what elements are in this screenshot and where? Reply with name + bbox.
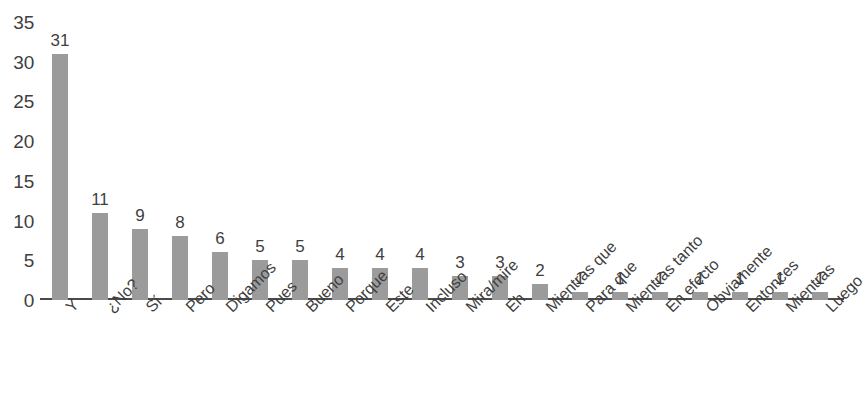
- bar-value-label: 4: [375, 246, 384, 263]
- bar-value-label: 5: [255, 238, 264, 255]
- bar-value-label: 31: [51, 32, 70, 49]
- bar-group: 11: [92, 213, 108, 300]
- bar[interactable]: [172, 236, 188, 300]
- bar-value-label: 8: [175, 214, 184, 231]
- bar[interactable]: [92, 213, 108, 300]
- y-axis-tick-label: 35: [13, 13, 34, 32]
- bar-group: 31: [52, 54, 68, 300]
- bar-group: 8: [172, 236, 188, 300]
- bar-value-label: 4: [335, 246, 344, 263]
- bar-value-label: 4: [415, 246, 424, 263]
- bar-value-label: 9: [135, 207, 144, 224]
- bar[interactable]: [532, 284, 548, 300]
- y-axis-tick-label: 15: [13, 171, 34, 190]
- y-axis-tick-label: 30: [13, 52, 34, 71]
- y-axis-tick-label: 25: [13, 92, 34, 111]
- y-axis-tick-label: 20: [13, 132, 34, 151]
- y-axis: 05101520253035: [0, 0, 40, 417]
- y-axis-tick-label: 0: [24, 291, 34, 310]
- y-axis-tick-label: 10: [13, 211, 34, 230]
- plot-area: 3111986554443321111111: [40, 0, 844, 417]
- bar-value-label: 11: [91, 191, 109, 208]
- bar-value-label: 2: [535, 262, 544, 279]
- bar-group: 2: [532, 284, 548, 300]
- bar-value-label: 5: [295, 238, 304, 255]
- bar-value-label: 6: [215, 230, 224, 247]
- bar[interactable]: [52, 54, 68, 300]
- y-axis-tick-label: 5: [24, 251, 34, 270]
